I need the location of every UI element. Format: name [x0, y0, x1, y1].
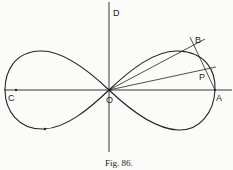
- point-lower-left: [44, 128, 46, 130]
- label-P: P: [199, 72, 205, 82]
- label-A: A: [216, 93, 222, 103]
- label-B: B: [195, 35, 201, 45]
- point-C: [15, 89, 17, 91]
- line-B-A: [190, 37, 215, 90]
- point-A: [214, 89, 216, 91]
- point-O: [109, 89, 112, 92]
- label-O: O: [106, 95, 113, 105]
- label-D: D: [113, 8, 120, 18]
- lemniscate-diagram: D B P A C O Fig. 86.: [0, 0, 233, 170]
- figure-caption: Fig. 86.: [105, 158, 133, 168]
- label-C: C: [8, 93, 15, 103]
- ray-OB: [109, 39, 205, 90]
